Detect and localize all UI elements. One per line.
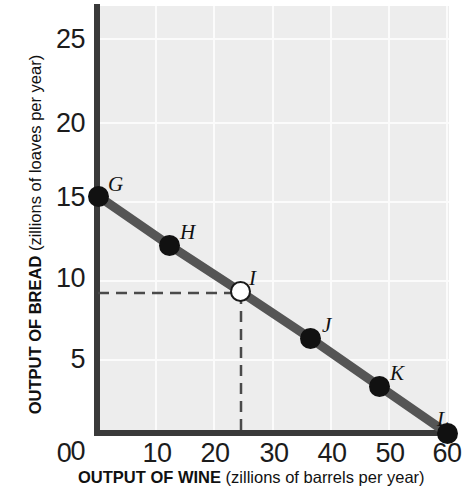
data-point-label-l: L [437,407,449,432]
x-axis-line [94,430,451,436]
data-point-label-h: H [180,220,195,245]
gridline-horizontal [98,280,449,282]
x-tick-label: 40 [302,438,362,469]
gridline-horizontal [98,38,449,40]
data-point-label-j: J [322,313,331,338]
y-axis-line [94,4,100,436]
x-tick-label: 20 [185,438,245,469]
y-axis-title: OUTPUT OF BREAD (zillions of loaves per … [26,25,45,445]
y-axis-title-bold: OUTPUT OF BREAD [26,256,44,415]
gridline-vertical [446,6,448,433]
data-point-k [369,376,390,397]
gridline-horizontal [98,201,449,203]
ppf-chart-figure: 25 20 15 10 5 0 0 10 20 30 40 50 60 G H … [0,0,463,497]
data-point-g [88,186,109,207]
x-axis-title-bold: OUTPUT OF WINE [78,468,221,486]
data-point-h [159,235,180,256]
x-tick-label: 10 [127,438,187,469]
x-tick-label: 50 [360,438,420,469]
data-point-i [230,281,251,302]
gridline-vertical [330,6,332,433]
x-axis-title-rest: (zillions of barrels per year) [221,468,425,486]
data-point-label-i: I [249,266,256,291]
gridline-vertical [155,6,157,433]
gridline-vertical [272,6,274,433]
y-axis-title-rest: (zillions of loaves per year) [26,55,44,256]
x-axis-title: OUTPUT OF WINE (zillions of barrels per … [78,468,463,487]
gridline-horizontal [98,122,449,124]
data-point-label-k: K [390,361,404,386]
gridline-vertical [213,6,215,433]
x-tick-label: 30 [244,438,304,469]
x-tick-label: 60 [417,438,463,469]
data-point-label-g: G [108,172,123,197]
data-point-j [300,328,321,349]
